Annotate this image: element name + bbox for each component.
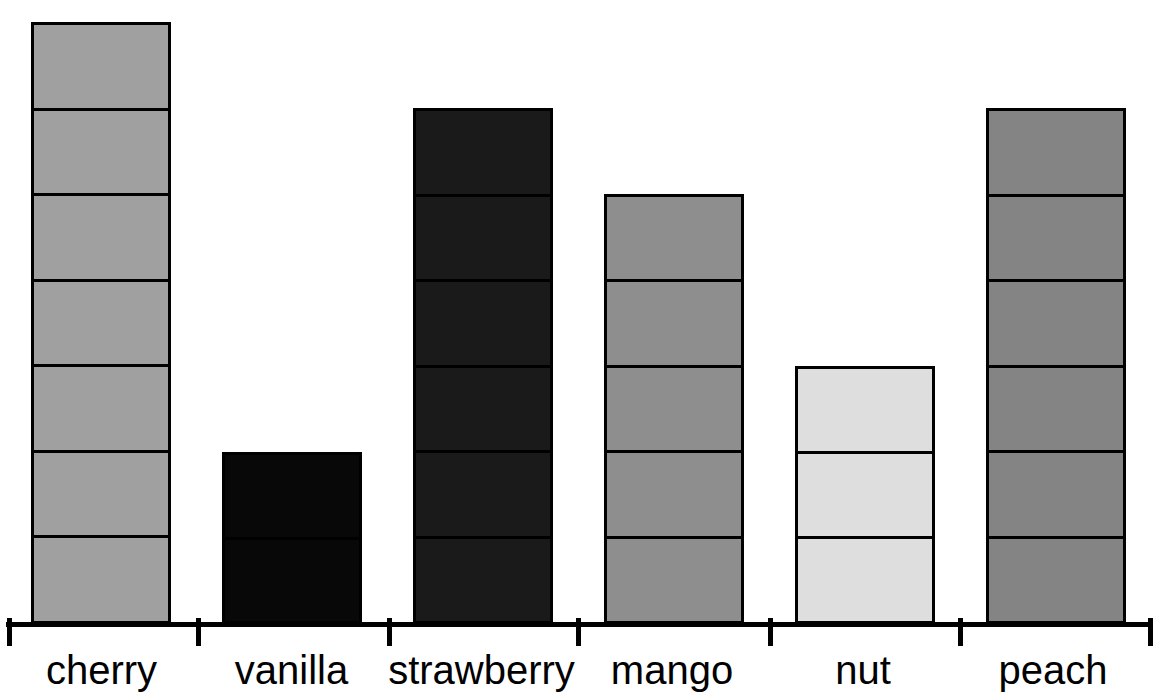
axis-label-mango: mango: [576, 646, 768, 694]
bar-vanilla[interactable]: [222, 452, 362, 624]
bar-segment: [798, 539, 932, 621]
bar-segment: [607, 282, 741, 367]
bar-chart: cherry vanilla strawberry mango nut peac…: [0, 0, 1163, 698]
axis-tick: [387, 618, 392, 646]
bar-segment: [416, 282, 550, 368]
bar-segment: [225, 540, 359, 622]
bar-segment: [798, 369, 932, 454]
axis-tick: [196, 618, 201, 646]
axis-tick: [7, 618, 12, 646]
bar-segment: [34, 196, 168, 282]
bar-segment: [34, 25, 168, 111]
bar-segment: [34, 538, 168, 621]
bar-mango[interactable]: [604, 194, 744, 624]
axis-label-strawberry: strawberry: [387, 646, 576, 694]
bar-segment: [416, 539, 550, 622]
bar-segment: [989, 197, 1123, 283]
bar-segment: [34, 367, 168, 453]
axis-tick: [1148, 618, 1153, 646]
axis-tick: [958, 618, 963, 646]
bar-segment: [607, 453, 741, 538]
axis-label-cherry: cherry: [7, 646, 196, 694]
x-axis-labels: cherry vanilla strawberry mango nut peac…: [0, 646, 1163, 698]
axis-tick: [576, 618, 581, 646]
bar-cherry[interactable]: [31, 22, 171, 624]
bar-segment: [607, 197, 741, 282]
bar-peach[interactable]: [986, 108, 1126, 624]
bar-segment: [989, 539, 1123, 622]
plot-area: [0, 0, 1163, 624]
bar-strawberry[interactable]: [413, 108, 553, 624]
axis-label-vanilla: vanilla: [196, 646, 387, 694]
axis-label-nut: nut: [768, 646, 958, 694]
bar-segment: [416, 197, 550, 283]
bar-segment: [607, 368, 741, 453]
bar-segment: [34, 111, 168, 197]
bar-segment: [34, 282, 168, 368]
axis-label-peach: peach: [958, 646, 1148, 694]
bar-segment: [607, 539, 741, 621]
bar-segment: [798, 454, 932, 539]
bar-segment: [416, 111, 550, 197]
bar-segment: [989, 368, 1123, 454]
bar-segment: [416, 368, 550, 454]
axis-tick: [768, 618, 773, 646]
bar-segment: [989, 282, 1123, 368]
bar-nut[interactable]: [795, 366, 935, 624]
bar-segment: [34, 453, 168, 539]
x-axis: [0, 618, 1163, 628]
bar-segment: [989, 453, 1123, 539]
bar-segment: [225, 455, 359, 540]
bar-segment: [416, 453, 550, 539]
bar-segment: [989, 111, 1123, 197]
